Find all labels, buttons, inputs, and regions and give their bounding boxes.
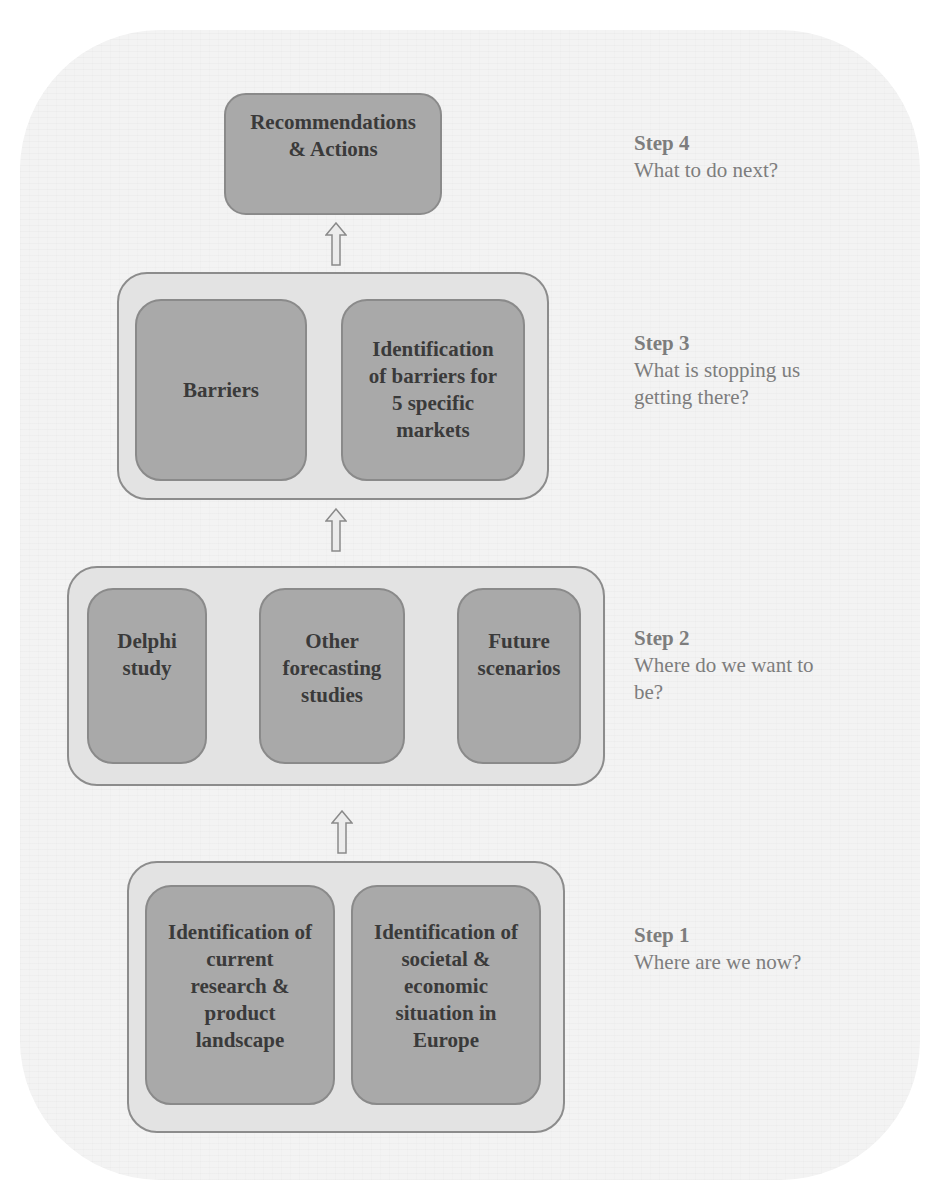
box-label: Delphi study — [117, 628, 177, 762]
step-2-caption: Step 2 Where do we want to be? — [634, 625, 814, 706]
box-other-forecasting-studies: Other forecasting studies — [259, 588, 405, 764]
step-3-container: Barriers Identification of barriers for … — [117, 272, 549, 500]
step-3-caption: Step 3 What is stopping us getting there… — [634, 330, 800, 411]
box-label: Identification of barriers for 5 specifi… — [369, 336, 497, 444]
box-barriers: Barriers — [135, 299, 307, 481]
step-4-caption: Step 4 What to do next? — [634, 130, 778, 184]
up-arrow-icon — [325, 222, 347, 266]
step-title: Step 4 — [634, 130, 778, 157]
box-label: Barriers — [183, 377, 259, 404]
box-societal-economic-situation: Identification of societal & economic si… — [351, 885, 541, 1105]
step-question: What to do next? — [634, 157, 778, 184]
step-question: Where are we now? — [634, 949, 801, 976]
box-identification-barriers-markets: Identification of barriers for 5 specifi… — [341, 299, 525, 481]
box-label: Recommendations & Actions — [250, 109, 416, 213]
step-title: Step 3 — [634, 330, 800, 357]
box-current-research-landscape: Identification of current research & pro… — [145, 885, 335, 1105]
up-arrow-icon — [331, 810, 353, 854]
box-label: Other forecasting studies — [283, 628, 382, 762]
step-question: What is stopping us getting there? — [634, 357, 800, 411]
step-1-caption: Step 1 Where are we now? — [634, 922, 801, 976]
box-label: Identification of societal & economic si… — [374, 919, 518, 1103]
step-title: Step 1 — [634, 922, 801, 949]
box-delphi-study: Delphi study — [87, 588, 207, 764]
step-title: Step 2 — [634, 625, 814, 652]
step-1-container: Identification of current research & pro… — [127, 861, 565, 1133]
box-future-scenarios: Future scenarios — [457, 588, 581, 764]
box-recommendations-actions: Recommendations & Actions — [224, 93, 442, 215]
box-label: Future scenarios — [478, 628, 561, 762]
box-label: Identification of current research & pro… — [168, 919, 312, 1103]
up-arrow-icon — [325, 508, 347, 552]
step-2-container: Delphi study Other forecasting studies F… — [67, 566, 605, 786]
step-question: Where do we want to be? — [634, 652, 814, 706]
